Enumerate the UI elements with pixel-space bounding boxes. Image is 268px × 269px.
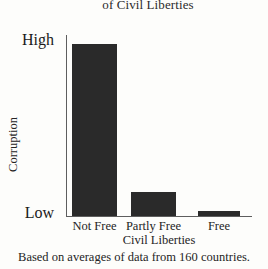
y-axis-tick-high: High [0, 31, 60, 49]
x-axis-tick-partly-free: Partly Free [119, 219, 189, 233]
x-axis-tick-free: Free [184, 219, 254, 233]
bar-free [198, 211, 240, 216]
x-axis-line [66, 216, 252, 217]
bar-chart-figure: of Civil Liberties High Low Corruption N… [0, 0, 268, 269]
x-axis-label: Civil Liberties [66, 233, 252, 247]
y-axis-label: Corruption [7, 95, 20, 195]
chart-footnote: Based on averages of data from 160 count… [0, 250, 268, 265]
bar-not-free [72, 44, 117, 216]
bars-layer [66, 35, 252, 216]
chart-title: of Civil Liberties [0, 0, 268, 12]
y-axis-tick-low: Low [0, 204, 60, 222]
bar-partly-free [131, 192, 176, 216]
